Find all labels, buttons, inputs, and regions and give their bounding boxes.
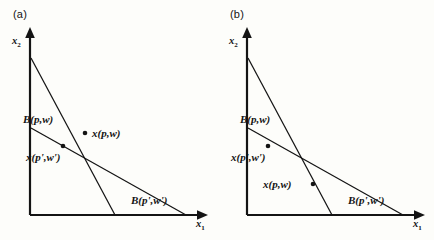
bundle-original-label: x(p,w) bbox=[263, 179, 291, 190]
bundle-original-label: x(p,w) bbox=[92, 128, 120, 139]
figure-budget-sets: (a) x2 x1 B(p,w) B(p',w') x(p,w) bbox=[0, 0, 434, 240]
x-axis bbox=[247, 210, 425, 220]
bundle-primed-label: x(p',w') bbox=[231, 152, 266, 163]
y-axis-label: x2 bbox=[229, 36, 238, 49]
panel-a: (a) x2 x1 B(p,w) B(p',w') x(p,w) bbox=[0, 0, 217, 240]
x-axis-label: x1 bbox=[413, 219, 422, 232]
bundle-primed-label: x(p',w') bbox=[26, 152, 61, 163]
x-axis bbox=[30, 210, 208, 220]
y-axis-label: x2 bbox=[12, 36, 21, 49]
budget-line-primed-label: B(p',w') bbox=[131, 195, 167, 206]
budget-line-original bbox=[248, 58, 332, 215]
panel-b: (b) x2 x1 B(p,w) B(p',w') x(p',w') x(p,w… bbox=[217, 0, 434, 240]
budget-line-original-label: B(p,w) bbox=[240, 114, 270, 125]
bundle-primed-dot bbox=[61, 144, 66, 149]
bundle-original-dot bbox=[311, 182, 316, 187]
budget-line-original-label: B(p,w) bbox=[23, 114, 53, 125]
bundle-original-dot bbox=[83, 131, 88, 136]
bundle-primed-dot bbox=[266, 144, 271, 149]
x-axis-label: x1 bbox=[196, 219, 205, 232]
budget-line-primed-label: B(p',w') bbox=[348, 195, 384, 206]
